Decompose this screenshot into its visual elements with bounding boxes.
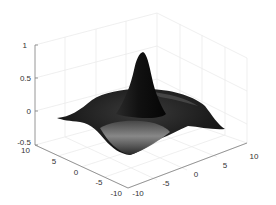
z-tick: 0.5 [20,74,32,83]
x-tick: 0 [194,170,199,179]
y-tick: -5 [95,178,103,187]
z-tick: 0 [27,107,32,116]
y-axis [35,145,128,188]
y-tick: 0 [74,168,79,177]
y-tick: 5 [52,157,57,166]
z-tick-labels: 1 0.5 0 -0.5 [17,41,31,147]
surface-plot-3d: 1 0.5 0 -0.5 10 5 0 -5 -10 -10 -5 0 5 10 [0,0,276,205]
left-tick-labels: 10 5 0 -5 -10 [21,146,122,198]
right-tick-labels: -10 -5 0 5 10 [132,152,259,198]
y-tick: -10 [110,189,122,198]
x-axis [128,143,247,188]
x-tick: 10 [250,152,259,161]
z-tick: 1 [23,41,28,50]
x-tick: 5 [223,161,228,170]
x-tick: -5 [162,179,170,188]
y-tick: 10 [21,146,30,155]
x-tick: -10 [132,189,144,198]
